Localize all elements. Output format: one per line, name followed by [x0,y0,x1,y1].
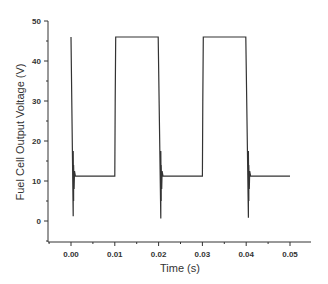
y-tick-label: 40 [32,57,41,66]
x-tick-label: 0.00 [63,250,79,259]
voltage-chart: 01020304050 0.000.010.020.030.040.05 Tim… [0,0,328,284]
y-tick-label: 0 [37,217,42,226]
x-tick-label: 0.04 [238,250,254,259]
y-tick-label: 20 [32,137,41,146]
voltage-line [71,37,290,219]
y-tick-label: 50 [32,17,41,26]
y-tick-label: 30 [32,97,41,106]
y-tick-label: 10 [32,177,41,186]
x-tick-label: 0.01 [107,250,123,259]
x-axis-title: Time (s) [160,262,200,274]
y-axis: 01020304050 [32,17,48,242]
x-axis: 0.000.010.020.030.040.05 [48,242,311,259]
x-tick-label: 0.05 [282,250,298,259]
x-tick-label: 0.03 [195,250,211,259]
x-tick-label: 0.02 [151,250,167,259]
y-axis-title: Fuel Cell Output Voltage (V) [14,64,26,201]
